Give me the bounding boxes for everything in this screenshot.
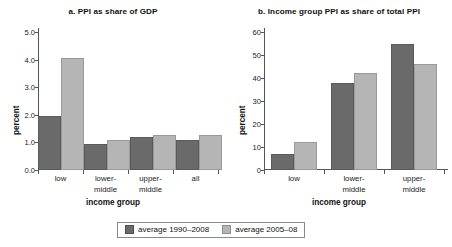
panel-a-y-axis-label: percent [12, 105, 21, 135]
bar [199, 135, 222, 170]
panel-a-x-axis-label: income group [0, 198, 226, 207]
legend-label-series-1: average 1990–2008 [138, 225, 209, 234]
panel-a-title: a. PPI as share of GDP [0, 7, 226, 16]
x-category-line: middle [324, 185, 384, 196]
x-category-line: middle [83, 185, 128, 196]
panel-a-x-ticks [38, 170, 218, 171]
x-category-line: low [38, 174, 83, 185]
bar-group [84, 32, 130, 170]
bar-group [384, 32, 444, 170]
legend-item-series-2: average 2005–08 [222, 225, 297, 234]
x-tick-mark [218, 170, 219, 174]
x-category-label: lower-middle [324, 174, 384, 195]
bar [153, 135, 176, 170]
bar-group [264, 32, 324, 170]
panel-a-bar-groups [38, 32, 218, 170]
x-category-line: middle [128, 185, 173, 196]
bar [130, 137, 153, 170]
x-category-label: all [173, 174, 218, 195]
x-category-label: upper-middle [384, 174, 444, 195]
x-category-line: lower- [324, 174, 384, 185]
bar-group [130, 32, 176, 170]
x-category-line: all [173, 174, 218, 185]
chart-legend: average 1990–2008 average 2005–08 [117, 222, 305, 238]
panel-b-title: b. Income group PPI as share of total PP… [226, 7, 452, 16]
panel-a-plot-area: 0.01.02.03.04.05.0 [38, 32, 218, 170]
bar [38, 116, 61, 170]
x-category-line: upper- [384, 174, 444, 185]
panel-b-y-axis-label: percent [238, 105, 247, 135]
legend-label-series-2: average 2005–08 [235, 225, 297, 234]
bar [354, 73, 377, 170]
chart-panel-b: b. Income group PPI as share of total PP… [226, 0, 452, 215]
bar [391, 44, 414, 171]
panel-b-bar-groups [264, 32, 444, 170]
bar [331, 83, 354, 170]
bar [414, 64, 437, 170]
legend-swatch-icon-series-2 [222, 225, 231, 234]
bar-group [176, 32, 222, 170]
bar-group [38, 32, 84, 170]
x-category-line: low [264, 174, 324, 185]
bar [107, 140, 130, 170]
panel-b-x-categories: lowlower-middleupper-middle [264, 174, 444, 195]
x-category-label: low [264, 174, 324, 195]
x-category-line: lower- [83, 174, 128, 185]
panel-a-x-categories: lowlower-middleupper-middleall [38, 174, 218, 195]
bar-group [324, 32, 384, 170]
panel-b-plot-area: 0102030405060 [264, 32, 444, 170]
x-category-label: upper-middle [128, 174, 173, 195]
bar [61, 58, 84, 170]
x-tick-mark [444, 170, 445, 174]
x-category-line: middle [384, 185, 444, 196]
panel-b-x-axis-label: income group [226, 198, 452, 207]
x-category-label: low [38, 174, 83, 195]
bar [176, 140, 199, 170]
x-category-line: upper- [128, 174, 173, 185]
legend-swatch-icon-series-1 [125, 225, 134, 234]
bar [294, 142, 317, 170]
bar [84, 144, 107, 170]
x-category-label: lower-middle [83, 174, 128, 195]
figure: a. PPI as share of GDP percent 0.01.02.0… [0, 0, 452, 247]
chart-panel-a: a. PPI as share of GDP percent 0.01.02.0… [0, 0, 226, 215]
panel-b-x-ticks [264, 170, 444, 171]
legend-item-series-1: average 1990–2008 [125, 225, 209, 234]
bar [271, 154, 294, 170]
